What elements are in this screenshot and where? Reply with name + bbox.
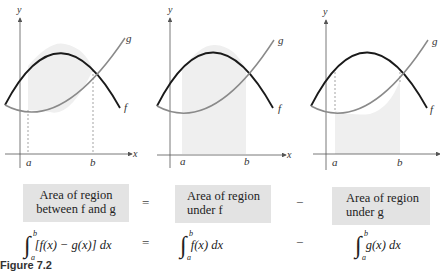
shaded-region-under-g	[335, 80, 400, 154]
curve-label-g: g	[126, 32, 132, 44]
lower-limit: a	[362, 253, 366, 262]
curve-label-f: f	[124, 101, 129, 113]
integral-sign: ∫	[180, 232, 187, 258]
upper-limit: b	[364, 229, 368, 238]
integral-sign: ∫	[355, 232, 362, 258]
tick-label-a: a	[332, 156, 338, 168]
panel-between: y x a b g f	[5, 4, 138, 168]
integral-sign: ∫	[24, 232, 31, 258]
integrand: g(x) dx	[366, 238, 401, 252]
graphs-figure: y x a b g f y x a b g f y g f a b	[0, 0, 440, 180]
label-line-2: between f and g	[23, 202, 129, 216]
tick-label-a: a	[180, 155, 186, 167]
label-line-2: under g	[346, 205, 430, 219]
equals-sign: =	[142, 235, 149, 251]
tick-label-b: b	[244, 155, 250, 167]
y-axis-label: y	[16, 4, 22, 15]
lower-limit: a	[187, 253, 191, 262]
integrand: f(x) dx	[191, 238, 223, 252]
curve-label-g: g	[278, 34, 284, 46]
minus-sign: −	[296, 195, 303, 211]
curve-label-f: f	[430, 103, 435, 115]
figure-caption: Figure 7.2	[0, 259, 52, 271]
tick-label-a: a	[26, 156, 32, 168]
panel-under-f: y x a b g f	[157, 4, 292, 168]
curve-f	[311, 52, 427, 108]
minus-sign: −	[296, 235, 303, 251]
tick-label-b: b	[90, 156, 96, 168]
label-box-under-f: Area of region under f	[175, 185, 271, 223]
upper-limit: b	[189, 229, 193, 238]
label-box-between: Area of region between f and g	[23, 184, 129, 222]
label-line-1: Area of region	[23, 188, 129, 202]
formula-under-f: ∫ b a f(x) dx	[180, 228, 223, 255]
label-line-1: Area of region	[346, 191, 430, 205]
y-axis-label: y	[167, 4, 173, 15]
panel-under-g: y g f a b	[311, 6, 440, 170]
formula-between: ∫ b a [f(x) − g(x)] dx	[24, 228, 112, 255]
integrand: [f(x) − g(x)] dx	[35, 238, 112, 252]
formula-under-g: ∫ b a g(x) dx	[355, 228, 401, 255]
upper-limit: b	[33, 229, 37, 238]
label-line-2: under f	[187, 203, 271, 217]
x-axis-label: x	[286, 149, 292, 160]
label-box-under-g: Area of region under g	[332, 187, 430, 225]
label-line-1: Area of region	[187, 189, 271, 203]
equals-sign: =	[142, 195, 149, 211]
tick-label-b: b	[397, 156, 403, 168]
curve-label-f: f	[278, 102, 283, 114]
x-axis-label: x	[132, 148, 138, 159]
y-axis-label: y	[322, 6, 328, 17]
curve-label-g: g	[432, 35, 438, 47]
